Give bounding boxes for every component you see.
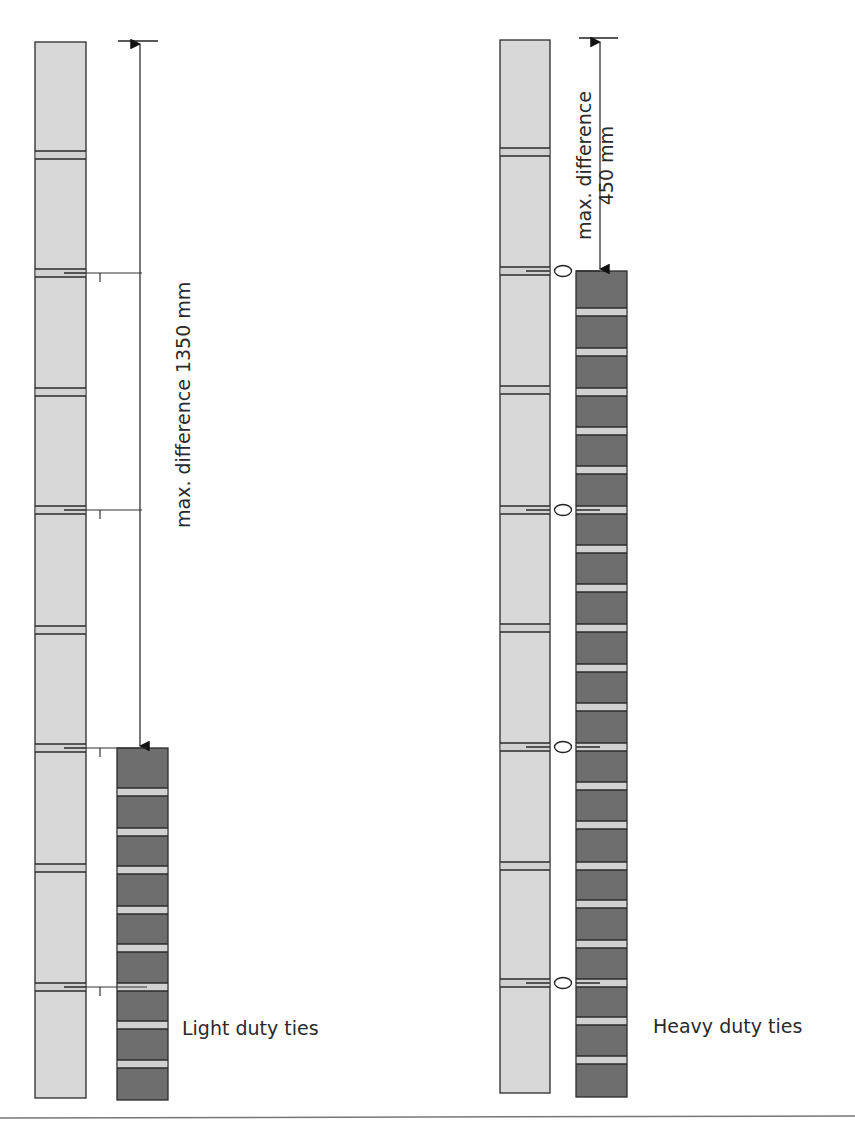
- mortar-joint: [577, 427, 627, 435]
- mortar-joint: [577, 308, 627, 316]
- dimension-label-heavy: max. difference 450 mm: [573, 91, 617, 240]
- mortar-joint: [36, 864, 86, 872]
- inner-leaf-wall: [35, 42, 86, 1098]
- mortar-joint: [501, 862, 550, 870]
- dimension-label-light: max. difference 1350 mm: [172, 282, 194, 528]
- bottom-rule: [0, 1116, 855, 1118]
- dimension-text-heavy-line2: 450 mm: [595, 91, 617, 240]
- mortar-joint: [577, 466, 627, 474]
- caption-light-duty-ties: Light duty ties: [182, 1017, 319, 1039]
- dimension-text-light: max. difference 1350 mm: [172, 282, 194, 528]
- mortar-joint: [577, 940, 627, 948]
- mortar-joint: [118, 944, 168, 952]
- mortar-joint: [501, 386, 550, 394]
- inner-leaf-wall: [500, 40, 550, 1093]
- light-duty-panel: [35, 41, 168, 1100]
- mortar-joint: [577, 545, 627, 553]
- dimension-text-heavy-line1: max. difference: [573, 91, 595, 240]
- outer-leaf-wall: [117, 748, 168, 1100]
- mortar-joint: [118, 788, 168, 796]
- mortar-joint: [577, 664, 627, 672]
- mortar-joint: [501, 148, 550, 156]
- wall-tie-diagram: [0, 0, 855, 1122]
- mortar-joint: [118, 866, 168, 874]
- mortar-joint: [36, 388, 86, 396]
- caption-heavy-duty-ties: Heavy duty ties: [653, 1015, 802, 1037]
- outer-leaf-wall: [576, 271, 627, 1097]
- mortar-joint: [577, 900, 627, 908]
- mortar-joint: [118, 1060, 168, 1068]
- mortar-joint: [36, 151, 86, 159]
- mortar-joint: [577, 821, 627, 829]
- mortar-joint: [501, 624, 550, 632]
- mortar-joint: [118, 1021, 168, 1029]
- mortar-joint: [577, 862, 627, 870]
- mortar-joint: [577, 348, 627, 356]
- mortar-joint: [577, 1017, 627, 1025]
- mortar-joint: [118, 828, 168, 836]
- mortar-joint: [577, 1056, 627, 1064]
- mortar-joint: [36, 626, 86, 634]
- mortar-joint: [577, 388, 627, 396]
- mortar-joint: [577, 782, 627, 790]
- mortar-joint: [577, 703, 627, 711]
- mortar-joint: [577, 624, 627, 632]
- mortar-joint: [118, 906, 168, 914]
- mortar-joint: [577, 584, 627, 592]
